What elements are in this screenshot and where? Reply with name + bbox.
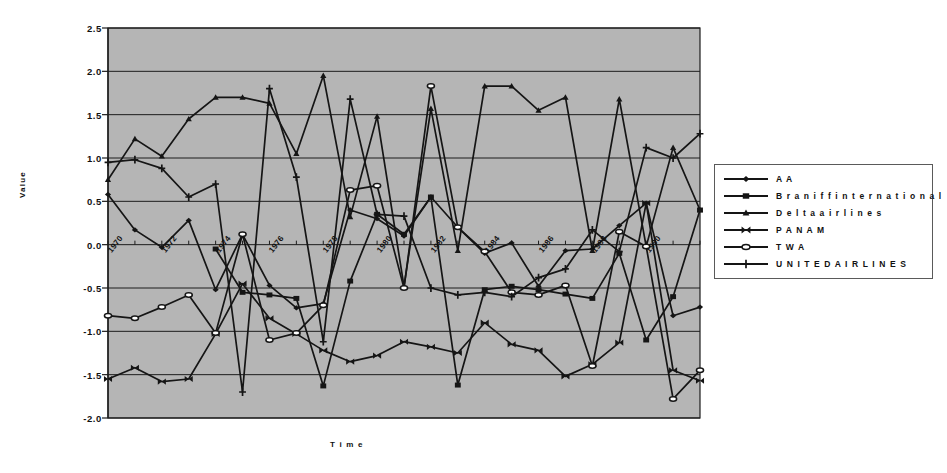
legend-label: D e l t a a i r l i n e s [776, 208, 882, 218]
legend-marker-square-icon [724, 190, 768, 202]
marker-open-ellipse [616, 229, 623, 233]
marker-open-ellipse [293, 331, 300, 335]
legend-label: P A N A M [776, 225, 825, 235]
marker-square [536, 287, 542, 292]
legend-marker-plus-icon [724, 258, 768, 270]
legend-label: T W A [776, 242, 805, 252]
marker-square [743, 193, 749, 198]
legend-item-twa[interactable]: T W A [715, 238, 932, 255]
legend-item-braniffinternational[interactable]: B r a n i f f i n t e r n a t i o n a l [715, 187, 932, 204]
legend-marker-diamond-icon [724, 173, 768, 185]
legend-item-deltaairlines[interactable]: D e l t a a i r l i n e s [715, 204, 932, 221]
legend-label: U N I T E D A I R L I N E S [776, 259, 907, 269]
marker-square [293, 296, 299, 301]
marker-open-ellipse [400, 286, 407, 290]
marker-open-ellipse [239, 232, 246, 236]
marker-open-ellipse [562, 283, 569, 287]
marker-square [240, 290, 246, 295]
marker-open-ellipse [158, 305, 165, 309]
marker-open-ellipse [427, 84, 434, 88]
marker-triangle [743, 209, 750, 215]
marker-open-ellipse [185, 293, 192, 297]
legend-label: B r a n i f f i n t e r n a t i o n a l [776, 191, 942, 201]
legend-item-unitedairlines[interactable]: U N I T E D A I R L I N E S [715, 255, 932, 272]
marker-open-ellipse [347, 188, 354, 192]
marker-open-ellipse [104, 314, 111, 318]
marker-square [670, 294, 676, 299]
marker-square [643, 338, 649, 343]
legend-marker-bowtie-icon [724, 224, 768, 236]
plot-background [108, 28, 700, 418]
chart-legend: A AB r a n i f f i n t e r n a t i o n a… [714, 164, 933, 279]
legend-item-panam[interactable]: P A N A M [715, 221, 932, 238]
marker-square [428, 195, 434, 200]
marker-plus [742, 259, 749, 268]
marker-diamond [743, 176, 750, 182]
marker-square [320, 383, 326, 388]
marker-open-ellipse [670, 397, 677, 401]
marker-open-ellipse [212, 331, 219, 335]
marker-square [347, 279, 353, 284]
marker-open-ellipse [742, 244, 750, 249]
legend-marker-triangle-icon [724, 207, 768, 219]
marker-open-ellipse [535, 293, 542, 297]
legend-marker-open-ellipse-icon [724, 241, 768, 253]
marker-square [401, 232, 407, 237]
marker-square [589, 296, 595, 301]
marker-open-ellipse [589, 364, 596, 368]
marker-square [267, 292, 273, 297]
marker-open-ellipse [454, 225, 461, 229]
marker-open-ellipse [374, 184, 381, 188]
marker-square [455, 383, 461, 388]
legend-label: A A [776, 174, 793, 184]
legend-item-aa[interactable]: A A [715, 170, 932, 187]
chart-container: Value T i m e 2.52.01.51.00.50.0-0.5-1.0… [0, 0, 947, 473]
marker-open-ellipse [266, 338, 273, 342]
marker-open-ellipse [131, 316, 138, 320]
marker-open-ellipse [696, 368, 703, 372]
marker-open-ellipse [320, 303, 327, 307]
marker-bowtie [742, 226, 751, 233]
